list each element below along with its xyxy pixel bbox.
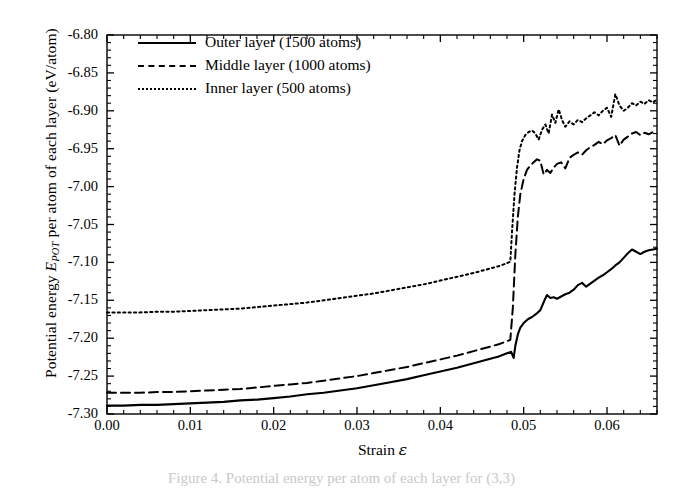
legend-label: Outer layer (1500 atoms) [205,34,361,50]
legend-item: Outer layer (1500 atoms) [138,31,371,52]
legend-item: Inner layer (500 atoms) [138,77,371,98]
chart-legend: Outer layer (1500 atoms)Middle layer (10… [138,31,371,98]
series-line-solid [107,249,657,406]
legend-key-dotted-icon [138,82,196,94]
x-tick-label: 0.04 [410,418,470,433]
x-tick-label-group: 0.000.010.020.030.040.050.06 [0,418,683,440]
x-tick-label: 0.01 [160,418,220,433]
x-tick-label: 0.06 [577,418,637,433]
legend-label: Inner layer (500 atoms) [205,80,351,96]
x-axis-title: Strain ε [107,441,658,459]
series-line-dotted [107,94,657,312]
x-tick-label: 0.02 [244,418,304,433]
legend-label: Middle layer (1000 atoms) [205,57,371,73]
x-tick-label: 0.00 [77,418,137,433]
x-axis-title-text: Strain [358,441,395,458]
data-series-group [107,94,657,406]
x-axis-title-symbol: ε [399,441,407,459]
legend-key-solid-icon [138,36,196,48]
legend-item: Middle layer (1000 atoms) [138,54,371,75]
figure-root: Potential energy EPOT per atom of each l… [0,0,683,488]
x-tick-label: 0.03 [327,418,387,433]
series-line-dashed [107,132,657,393]
figure-caption: Figure 4. Potential energy per atom of e… [0,470,683,488]
legend-key-dashed-icon [138,59,196,71]
x-tick-label: 0.05 [494,418,554,433]
